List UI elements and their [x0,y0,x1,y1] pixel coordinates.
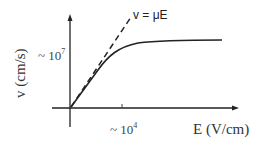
y-axis [68,14,73,127]
x-axis [52,106,239,111]
x-tick-label: ~ 104 [110,121,137,137]
annotation-label: v = μE [133,8,168,22]
x-axis-label: E (V/cm) [193,121,249,138]
velocity-field-chart: v = μE ~ 107 ~ 104 E (V/cm) v (cm/s) [0,0,257,149]
y-axis-label: v (cm/s) [12,48,29,98]
y-tick-label: ~ 107 [38,47,65,63]
